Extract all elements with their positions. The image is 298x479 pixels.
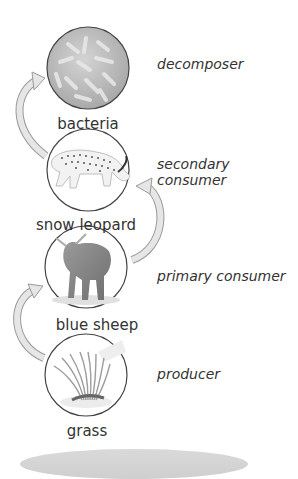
arrow-leopard-to-bacteria [19, 72, 46, 156]
role-label-secondary-consumer: secondary consumer [157, 156, 298, 188]
bacteria-icon [47, 27, 129, 109]
base-shape [20, 449, 248, 479]
blue-sheep-icon [45, 226, 127, 308]
role-label-primary-consumer: primary consumer [157, 268, 286, 284]
organism-label-blue-sheep: blue sheep [37, 316, 157, 334]
organism-label-bacteria: bacteria [28, 115, 148, 133]
role-label-decomposer: decomposer [157, 56, 244, 72]
organism-label-snow-leopard: snow leopard [26, 216, 146, 234]
grass-icon [45, 334, 127, 416]
snow-leopard-icon [47, 129, 130, 211]
role-label-producer: producer [157, 366, 220, 382]
organism-label-grass: grass [27, 422, 147, 440]
